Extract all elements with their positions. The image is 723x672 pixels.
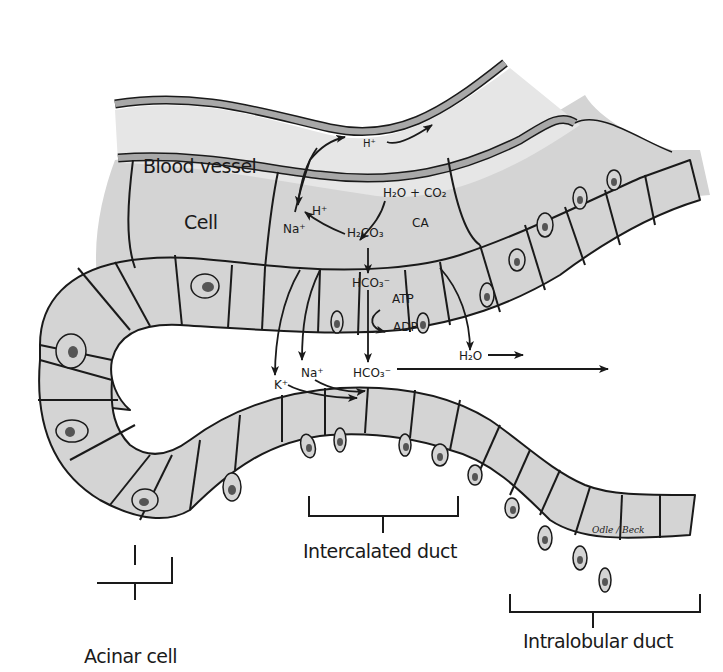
label-h-plus-cell: H⁺ xyxy=(312,204,327,218)
label-acinar-cell: Acinar cell xyxy=(84,645,177,667)
label-intralobular-duct: Intralobular duct xyxy=(523,630,673,652)
label-k-plus-lumen: K⁺ xyxy=(274,378,288,392)
label-adp: ADP xyxy=(393,320,418,334)
label-cell: Cell xyxy=(184,211,218,233)
label-blood-vessel: Blood vessel xyxy=(143,155,256,177)
label-na-plus-cell: Na⁺ xyxy=(283,222,306,236)
label-hco3-cell: HCO₃⁻ xyxy=(352,276,390,290)
label-h2o-co2: H₂O + CO₂ xyxy=(383,186,447,200)
label-atp: ATP xyxy=(392,292,414,306)
label-na-plus-lumen: Na⁺ xyxy=(301,366,324,380)
label-h2co3: H₂CO₃ xyxy=(347,226,384,240)
label-h-plus-vessel: H⁺ xyxy=(363,138,376,149)
artist-signature: Odle / Beck xyxy=(592,525,645,535)
label-hco3-lumen: HCO₃⁻ xyxy=(353,366,391,380)
duct-diagram: Blood vessel Cell Acinar cell Intercalat… xyxy=(0,0,723,672)
label-intercalated-duct: Intercalated duct xyxy=(303,540,457,562)
label-h2o-lumen: H₂O xyxy=(459,349,482,363)
label-ca: CA xyxy=(412,216,429,230)
